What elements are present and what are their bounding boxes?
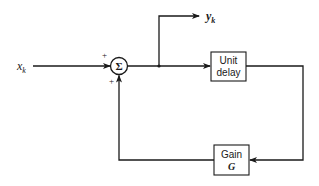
gain-block: Gain G: [214, 145, 249, 175]
summing-junction: Σ: [111, 58, 128, 75]
feedback-signal-line: [119, 76, 214, 161]
input-label: xk: [16, 59, 26, 75]
block-diagram: xk + + Σ yk Unit delay Gain G: [0, 0, 319, 186]
gain-label-line1: Gain: [221, 149, 242, 160]
output-label: yk: [204, 9, 215, 25]
unit-delay-label-line2: delay: [217, 67, 241, 78]
summer-sign-bottom: +: [109, 76, 114, 86]
output-signal-line: [159, 16, 199, 66]
summer-sign-top: +: [102, 50, 107, 60]
sigma-icon: Σ: [115, 60, 122, 72]
gain-label-line2: G: [228, 161, 236, 172]
unit-delay-label-line1: Unit: [220, 55, 238, 66]
unit-delay-block: Unit delay: [211, 52, 246, 81]
delay-to-gain-line: [246, 66, 303, 160]
